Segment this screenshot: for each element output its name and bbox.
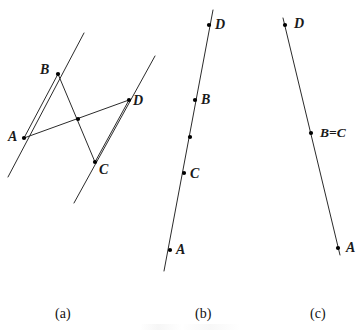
panel-a-segment-AB (24, 74, 58, 138)
figure-canvas (0, 0, 362, 331)
lines-layer (8, 10, 340, 271)
panel-b-point-C-dot (182, 171, 186, 175)
panel-b-point-B-dot (193, 98, 197, 102)
panel-a-point-C-dot (93, 160, 97, 164)
panel-c-point-D-label: D (294, 17, 304, 31)
panel-b-point-D-dot (207, 23, 211, 27)
panel-caption-c: (c) (310, 307, 326, 321)
panel-b-point-A-dot (168, 248, 172, 252)
panel-a-point-D-dot (127, 98, 131, 102)
panel-c-point-A-label: A (346, 241, 355, 255)
geometry-figure: ABCDACBDDB=CA (a)(b)(c) (0, 0, 362, 331)
panel-c-point-B-equals-C-label: B=C (320, 126, 346, 140)
panel-b-point-B-label: B (201, 93, 210, 107)
panel-c-point-A-dot (336, 246, 340, 250)
panel-a-point-D-label: D (133, 94, 143, 108)
panel-a-point-B-label: B (40, 63, 49, 77)
panel-c-point-B-equals-C-dot (309, 131, 313, 135)
panel-a-point-B-dot (56, 72, 60, 76)
panel-a-segment-CD (95, 100, 129, 162)
panel-a-point-intersection-dot (76, 117, 80, 121)
panel-b-point-D-label: D (215, 18, 225, 32)
panel-a-point-A-label: A (8, 130, 17, 144)
panel-a-parallel-line-right (74, 56, 155, 203)
panel-c-point-D-dot (283, 23, 287, 27)
panel-b-point-tick-dot (188, 135, 192, 139)
panel-caption-b: (b) (195, 307, 211, 321)
panel-b-point-C-label: C (190, 167, 199, 181)
panel-a-point-A-dot (22, 136, 26, 140)
panel-a-point-C-label: C (99, 163, 108, 177)
panel-a-parallel-line-left (8, 33, 84, 177)
panel-b-collinear-line-b (164, 10, 213, 271)
page-artifact (140, 324, 240, 330)
panel-b-point-A-label: A (176, 243, 185, 257)
panel-caption-a: (a) (55, 307, 71, 321)
